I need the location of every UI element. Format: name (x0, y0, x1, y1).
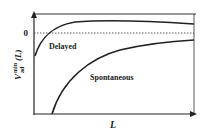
y-axis-label: V ad min (L) (12, 50, 25, 81)
delayed-label: Delayed (49, 42, 77, 51)
svg-text:min: min (12, 62, 18, 73)
x-axis-label: L (109, 119, 116, 130)
chart: 0 Delayed Spontaneous L V ad min (L) (0, 0, 204, 133)
svg-text:(L): (L) (13, 50, 23, 62)
svg-text:V: V (13, 73, 23, 80)
x-axis-arrow-icon (190, 111, 197, 117)
svg-text:ad: ad (19, 66, 25, 73)
spontaneous-label: Spontaneous (90, 73, 134, 82)
y-tick-zero: 0 (24, 28, 29, 38)
